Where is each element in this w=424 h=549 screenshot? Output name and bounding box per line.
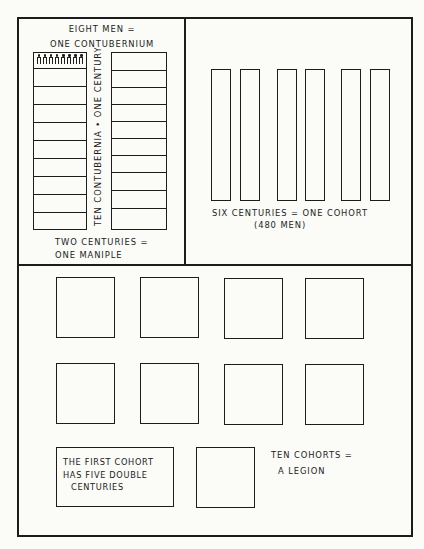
century-bar bbox=[211, 69, 231, 201]
soldier-icon bbox=[73, 54, 78, 64]
contubernium-divider bbox=[112, 172, 166, 173]
contubernium-divider bbox=[112, 70, 166, 71]
soldier-icon bbox=[79, 54, 84, 64]
cohort-square bbox=[224, 278, 283, 339]
caption-line: SIX CENTURIES = ONE COHORT bbox=[212, 207, 368, 219]
soldier-icon bbox=[48, 54, 53, 64]
contubernium-divider bbox=[34, 86, 86, 87]
cohort-square bbox=[305, 364, 364, 425]
contubernium-divider bbox=[112, 104, 166, 105]
caption-line: ONE MANIPLE bbox=[55, 249, 148, 261]
century-left bbox=[33, 52, 87, 230]
divider-horizontal bbox=[18, 264, 412, 266]
cohort-square bbox=[56, 363, 115, 424]
contubernium-divider bbox=[34, 104, 86, 105]
first-cohort-box: THE FIRST COHORT HAS FIVE DOUBLE CENTURI… bbox=[56, 447, 174, 507]
cohort-square bbox=[305, 278, 364, 339]
soldier-icon bbox=[67, 54, 72, 64]
soldier-icon bbox=[42, 54, 47, 64]
contubernium-divider bbox=[34, 158, 86, 159]
century-right bbox=[111, 52, 167, 230]
contubernium-divider bbox=[112, 208, 166, 209]
caption-ten-cohorts: TEN COHORTS = A LEGION bbox=[271, 449, 353, 478]
caption-line: THE FIRST COHORT bbox=[63, 456, 154, 469]
cohort-square bbox=[140, 363, 199, 424]
caption-line: TEN COHORTS = bbox=[271, 449, 353, 462]
cohort-square bbox=[140, 277, 199, 338]
century-bar bbox=[341, 69, 361, 201]
contubernium-divider bbox=[34, 122, 86, 123]
soldier-icon bbox=[61, 54, 66, 64]
cohort-square bbox=[196, 447, 255, 508]
contubernium-divider bbox=[112, 138, 166, 139]
caption-two-centuries: TWO CENTURIES = ONE MANIPLE bbox=[55, 236, 148, 261]
contubernium-divider bbox=[34, 68, 86, 69]
caption-line: TWO CENTURIES = bbox=[55, 236, 148, 248]
contubernium-divider bbox=[112, 155, 166, 156]
cohort-square bbox=[56, 277, 115, 338]
soldier-icon bbox=[36, 54, 41, 64]
century-bar bbox=[370, 69, 390, 201]
caption-line: CENTURIES bbox=[63, 481, 154, 494]
caption-line: EIGHT MEN = bbox=[20, 23, 184, 35]
caption-six-centuries: SIX CENTURIES = ONE COHORT bbox=[212, 207, 368, 219]
first-cohort-label: THE FIRST COHORT HAS FIVE DOUBLE CENTURI… bbox=[63, 456, 154, 494]
century-bar bbox=[277, 69, 297, 201]
cohort-square bbox=[224, 364, 283, 425]
caption-480-men: (480 MEN) bbox=[254, 219, 306, 231]
caption-line: HAS FIVE DOUBLE bbox=[63, 469, 154, 482]
century-bar bbox=[240, 69, 260, 201]
eight-men-icon bbox=[36, 54, 84, 64]
contubernium-divider bbox=[112, 121, 166, 122]
caption-line: (480 MEN) bbox=[254, 219, 306, 231]
contubernium-divider bbox=[34, 212, 86, 213]
century-bar bbox=[305, 69, 325, 201]
contubernium-divider bbox=[112, 87, 166, 88]
contubernium-divider bbox=[34, 140, 86, 141]
caption-ten-contubernia: TEN CONTUBERNIA • ONE CENTURY bbox=[93, 46, 103, 226]
contubernium-divider bbox=[112, 190, 166, 191]
contubernium-divider bbox=[34, 176, 86, 177]
soldier-icon bbox=[54, 54, 59, 64]
divider-vertical bbox=[184, 18, 186, 266]
contubernium-divider bbox=[34, 194, 86, 195]
caption-line: A LEGION bbox=[271, 465, 353, 478]
